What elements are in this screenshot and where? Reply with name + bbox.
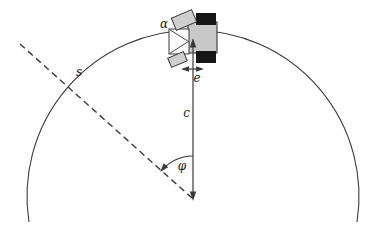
label-phi: φ [178,159,187,173]
figure-canvas: α s c e φ [0,0,384,238]
e-arrow-left-icon [181,66,189,72]
label-s: s [76,65,82,79]
heading-dashed-line [20,44,192,198]
phi-angle-arc [158,156,193,174]
label-c: c [183,106,190,120]
robot-wheel-top [196,13,216,25]
robot-wheel-bottom [196,51,216,63]
robot [168,10,217,68]
sensor-housing [169,29,189,54]
robot-body [188,22,217,53]
label-alpha: α [160,17,168,31]
robot-circle-diagram: α s c e φ [0,0,384,238]
label-e: e [193,71,200,85]
c-measure-line [190,38,196,201]
